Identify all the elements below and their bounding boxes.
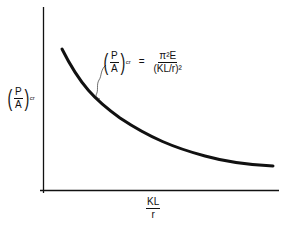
x-numerator: KL xyxy=(146,197,160,209)
eq-rhs-numerator: π²E xyxy=(158,51,177,63)
paren-open: ( xyxy=(8,86,13,110)
eq-lhs-subscript: cr xyxy=(126,59,131,65)
y-fraction: P A xyxy=(14,87,23,110)
eq-lhs-denominator: A xyxy=(111,63,118,74)
equals-sign: = xyxy=(139,57,145,67)
y-denominator: A xyxy=(15,99,22,110)
paren-close: ) xyxy=(120,50,125,74)
eq-lhs-numerator: P xyxy=(110,51,119,63)
x-denominator: r xyxy=(151,209,154,220)
x-fraction: KL r xyxy=(146,197,160,220)
paren-close: ) xyxy=(24,86,29,110)
euler-equation: ( P A ) cr = π²E (KL/r)² xyxy=(102,50,182,74)
y-subscript: cr xyxy=(30,95,35,101)
paren-open: ( xyxy=(104,50,109,74)
x-axis-label: KL r xyxy=(146,197,160,220)
y-axis-label: ( P A ) cr xyxy=(6,86,35,110)
eq-lhs-fraction: P A xyxy=(110,51,119,74)
y-numerator: P xyxy=(14,87,23,99)
chart-canvas xyxy=(0,0,285,227)
eq-rhs-denominator: (KL/r)² xyxy=(154,63,182,74)
eq-rhs-fraction: π²E (KL/r)² xyxy=(154,51,182,74)
